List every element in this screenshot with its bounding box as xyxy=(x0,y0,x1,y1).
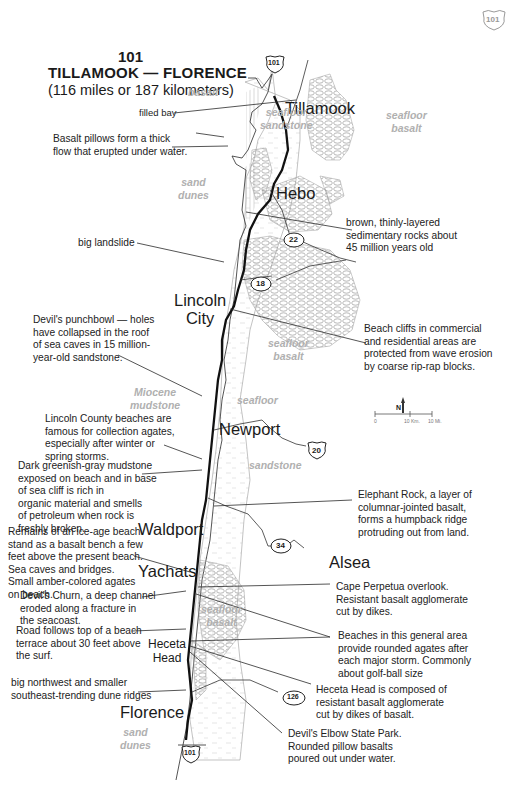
route-number-title: 101 xyxy=(118,48,143,65)
route-126-marker: 126 xyxy=(282,690,306,710)
map-legend: N 0 10 Km. 10 Mi. xyxy=(370,395,450,425)
geology-label-sandstone: sandstone xyxy=(249,459,302,472)
annotation-dune-ridges: big northwest and smaller southeast-tren… xyxy=(11,677,151,702)
annotation-heceta-head: Heceta Head is composed of resistant bas… xyxy=(316,684,447,722)
annotation-elephant-rock: Elephant Rock, a layer of columnar-joint… xyxy=(358,489,472,539)
page-title: TILLAMOOK — FLORENCE xyxy=(48,64,247,81)
town-lincoln-city: Lincoln City xyxy=(174,291,226,327)
geology-label-sand-dunes-south: sand dunes xyxy=(120,726,151,752)
geology-label-miocene-mudstone: Miocene mudstone xyxy=(130,386,180,412)
town-yachats: Yachats xyxy=(138,562,196,580)
north-arrow-icon xyxy=(370,395,450,417)
geology-label-sand-dunes-north: sand dunes xyxy=(178,176,209,202)
us-20-shield: 20 xyxy=(306,440,328,464)
annotation-big-landslide: big landslide xyxy=(78,237,135,250)
town-heceta-head: Heceta Head xyxy=(148,637,186,665)
north-arrow-label: N xyxy=(396,404,401,411)
annotation-devils-elbow: Devil's Elbow State Park. Rounded pillow… xyxy=(288,728,402,766)
annotation-beach-cliffs: Beach cliffs in commercial and residenti… xyxy=(364,323,493,373)
annotation-road-beach-terrace: Road follows top of a beach terrace abou… xyxy=(16,625,142,663)
scale-tick-10km: 10 Km. xyxy=(404,418,420,424)
route-34-marker: 34 xyxy=(270,538,292,558)
corner-shield-label: 101 xyxy=(486,15,499,24)
geology-label-seafloor-basalt-south: seafloor basalt xyxy=(201,603,242,629)
us-highway-shield-icon: 101 xyxy=(480,8,508,36)
geology-label-seafloor: seafloor xyxy=(237,394,278,407)
town-hebo: Hebo xyxy=(276,184,315,202)
annotation-rounded-agates: Beaches in this general area provide rou… xyxy=(338,630,471,680)
geology-label-seafloor-sandstone: seafloor sandstone xyxy=(260,106,313,132)
scale-tick-10mi: 10 Mi. xyxy=(428,418,442,424)
geology-label-seafloor-basalt-central: seafloor basalt xyxy=(268,337,309,363)
annotation-dark-mudstone: Dark greenish-gray mudstone exposed on b… xyxy=(18,460,157,536)
annotation-devils-churn: Devil's Churn, a deep channel eroded alo… xyxy=(20,590,156,628)
highway-101-north-shield: 101 xyxy=(264,54,286,78)
route-22-marker: 22 xyxy=(283,232,305,252)
route-18-marker: 18 xyxy=(250,276,272,296)
town-newport: Newport xyxy=(219,420,280,438)
town-alsea: Alsea xyxy=(329,553,370,571)
annotation-brown-sedimentary: brown, thinly-layered sedimentary rocks … xyxy=(346,217,457,255)
annotation-cape-perpetua: Cape Perpetua overlook. Resistant basalt… xyxy=(336,581,468,619)
coastal-land-strip xyxy=(190,68,300,760)
annotation-filled-bay: filled bay xyxy=(139,107,177,120)
scale-tick-0: 0 xyxy=(374,418,377,424)
geology-label-basalt: basalt xyxy=(188,86,218,99)
geology-label-seafloor-basalt-north: seafloor basalt xyxy=(386,109,427,135)
highway-101-south-shield: 101 xyxy=(180,744,202,768)
annotation-lincoln-county-beaches: Lincoln County beaches are famous for co… xyxy=(45,413,175,463)
annotation-devils-punchbowl: Devil's punchbowl — holes have collapsed… xyxy=(33,314,154,364)
annotation-basalt-pillows: Basalt pillows form a thick flow that er… xyxy=(53,133,187,158)
town-florence: Florence xyxy=(120,703,184,721)
